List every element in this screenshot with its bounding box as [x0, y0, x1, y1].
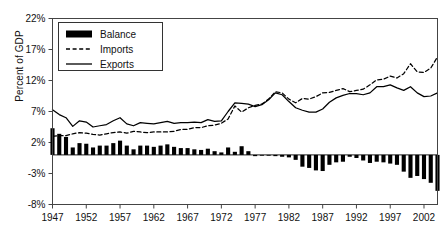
x-tick-label: 1947	[41, 212, 64, 223]
series-exports-line	[53, 85, 438, 127]
balance-bar	[179, 148, 183, 155]
balance-bar	[206, 149, 210, 155]
x-tick-label: 1972	[210, 212, 233, 223]
balance-bar	[91, 147, 95, 154]
legend-label-exports: Exports	[100, 59, 134, 70]
balance-bar	[131, 149, 135, 155]
balance-bar	[226, 147, 230, 154]
balance-bar	[159, 146, 163, 155]
x-tick-label: 1967	[176, 212, 199, 223]
balance-bar	[104, 146, 108, 155]
y-tick-label: -3%	[28, 168, 46, 179]
balance-bar	[388, 155, 392, 164]
x-axis-ticks: 1947195219571962196719721977198219871992…	[41, 205, 435, 223]
balance-bar	[334, 155, 338, 162]
balance-bar	[138, 146, 142, 155]
balance-bar	[145, 146, 149, 155]
balance-bar	[199, 150, 203, 155]
y-tick-label: 2%	[31, 137, 46, 148]
balance-bar	[118, 141, 122, 155]
x-tick-label: 1992	[345, 212, 368, 223]
legend-label-imports: Imports	[100, 44, 133, 55]
balance-bar	[240, 146, 244, 155]
y-tick-label: 17%	[25, 44, 45, 55]
balance-bar	[98, 146, 102, 155]
x-tick-label: 1977	[244, 212, 267, 223]
balance-bar	[152, 147, 156, 155]
balance-bar	[246, 151, 250, 155]
x-tick-label: 1957	[109, 212, 132, 223]
x-tick-label: 1987	[312, 212, 335, 223]
balance-bar	[429, 155, 433, 183]
y-tick-label: 12%	[25, 75, 45, 86]
balance-bar	[300, 155, 304, 167]
balance-bar	[233, 152, 237, 155]
balance-bar	[57, 134, 61, 155]
balance-bar	[307, 155, 311, 168]
balance-bar	[408, 155, 412, 178]
chart-plot: 22%17%12%7%2%-3%-8% 19471952195719621967…	[0, 0, 448, 238]
balance-bar	[422, 155, 426, 179]
balance-bar	[395, 155, 399, 165]
x-tick-label: 1997	[379, 212, 402, 223]
balance-bar	[64, 137, 68, 155]
balance-bar	[381, 155, 385, 162]
balance-bar	[402, 155, 406, 172]
balance-bar	[321, 155, 325, 171]
y-tick-label: 7%	[31, 106, 46, 117]
balance-bar	[415, 155, 419, 176]
balance-bar	[375, 155, 379, 162]
balance-bar	[327, 155, 331, 165]
x-tick-label: 2002	[413, 212, 436, 223]
legend-swatch-balance	[66, 31, 92, 38]
balance-bar	[77, 143, 81, 155]
balance-bar	[294, 155, 298, 160]
legend-label-balance: Balance	[100, 29, 137, 40]
balance-bar	[354, 155, 358, 158]
x-tick-label: 1952	[75, 212, 98, 223]
balance-bar	[314, 155, 318, 171]
balance-bar	[125, 146, 129, 155]
balance-bar	[341, 155, 345, 162]
chart-container: Percent of GDP 22%17%12%7%2%-3%-8% 19471…	[0, 0, 448, 238]
balance-bar	[71, 147, 75, 154]
balance-bar-series	[50, 128, 439, 191]
y-axis-ticks: 22%17%12%7%2%-3%-8%	[25, 13, 52, 210]
y-tick-label: 22%	[25, 13, 45, 24]
balance-bar	[172, 147, 176, 155]
balance-bar	[368, 155, 372, 163]
balance-bar	[361, 155, 365, 161]
y-tick-label: -8%	[28, 199, 46, 210]
chart-legend: BalanceImportsExports	[59, 23, 163, 71]
balance-bar	[84, 144, 88, 155]
balance-bar	[165, 144, 169, 155]
x-tick-label: 1982	[278, 212, 301, 223]
balance-bar	[186, 148, 190, 155]
balance-bar	[111, 143, 115, 155]
balance-bar	[213, 151, 217, 155]
balance-bar	[192, 149, 196, 155]
x-tick-label: 1962	[143, 212, 166, 223]
